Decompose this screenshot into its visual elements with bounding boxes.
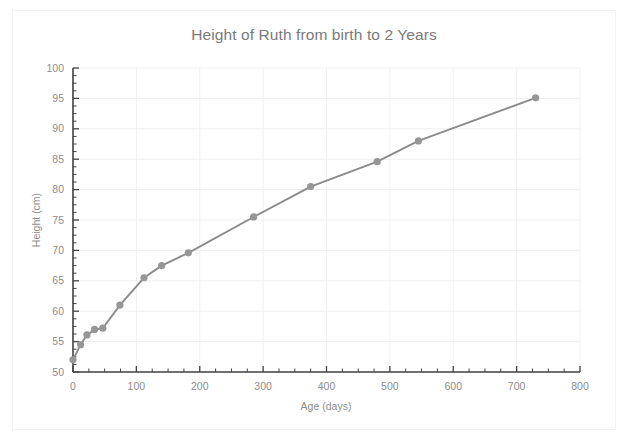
data-point-marker	[77, 341, 84, 348]
x-tick-label: 500	[381, 380, 399, 392]
line-chart-plot: 5055606570758085909510001002003004005006…	[0, 0, 628, 443]
x-tick-label: 300	[254, 380, 272, 392]
axis-tick-labels: 5055606570758085909510001002003004005006…	[46, 62, 588, 392]
data-series	[69, 94, 539, 363]
data-point-marker	[250, 213, 257, 220]
y-tick-label: 100	[46, 62, 64, 74]
x-tick-label: 200	[191, 380, 209, 392]
data-point-marker	[185, 249, 192, 256]
data-point-marker	[415, 137, 422, 144]
y-axis-label: Height (cm)	[30, 193, 42, 247]
data-point-marker	[99, 325, 106, 332]
y-tick-label: 75	[52, 214, 64, 226]
y-tick-label: 55	[52, 335, 64, 347]
y-tick-label: 50	[52, 366, 64, 378]
y-tick-label: 95	[52, 92, 64, 104]
y-tick-label: 85	[52, 153, 64, 165]
x-tick-label: 600	[444, 380, 462, 392]
data-point-marker	[91, 326, 98, 333]
data-point-marker	[83, 331, 90, 338]
x-tick-label: 0	[70, 380, 76, 392]
data-point-marker	[116, 302, 123, 309]
data-point-marker	[374, 158, 381, 165]
x-tick-label: 400	[318, 380, 336, 392]
data-point-marker	[140, 274, 147, 281]
x-tick-label: 100	[128, 380, 146, 392]
data-point-marker	[158, 262, 165, 269]
data-point-marker	[69, 356, 76, 363]
x-axis-label: Age (days)	[301, 400, 352, 412]
y-tick-label: 90	[52, 122, 64, 134]
y-tick-label: 60	[52, 305, 64, 317]
chart-figure: Height of Ruth from birth to 2 Years 505…	[0, 0, 628, 443]
data-point-marker	[532, 94, 539, 101]
series-line	[73, 98, 536, 360]
y-tick-label: 65	[52, 274, 64, 286]
x-tick-label: 700	[508, 380, 526, 392]
gridlines	[73, 68, 580, 372]
x-tick-label: 800	[571, 380, 589, 392]
data-point-marker	[307, 183, 314, 190]
y-tick-label: 80	[52, 183, 64, 195]
y-tick-label: 70	[52, 244, 64, 256]
